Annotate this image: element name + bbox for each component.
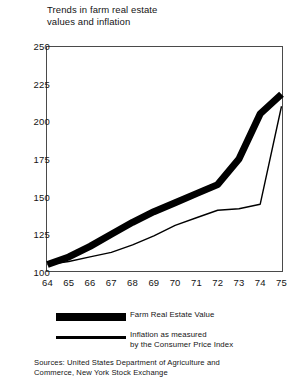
legend-item-1: Farm Real Estate Value <box>56 310 296 321</box>
x-axis-tick-73: 73 <box>228 277 250 288</box>
y-axis-tick-125: 125 <box>14 229 50 240</box>
x-axis-tick-66: 66 <box>79 277 101 288</box>
legend-label-2: Inflation as measured by the Consumer Pr… <box>130 330 233 350</box>
x-axis-tick-69: 69 <box>143 277 165 288</box>
y-axis-tick-150: 150 <box>14 191 50 202</box>
x-axis-tick-68: 68 <box>122 277 144 288</box>
x-axis-tick-70: 70 <box>164 277 186 288</box>
series-line-inflation-cpi <box>48 106 282 264</box>
y-axis-tick-225: 225 <box>14 78 50 89</box>
y-axis-tick-175: 175 <box>14 154 50 165</box>
x-axis-tick-75: 75 <box>271 277 293 288</box>
x-axis-tick-72: 72 <box>207 277 229 288</box>
chart-legend: Farm Real Estate ValueInflation as measu… <box>56 310 296 359</box>
legend-swatch-inflation <box>56 336 126 339</box>
chart-title: Trends in farm real estate values and in… <box>47 4 158 28</box>
legend-label-1: Farm Real Estate Value <box>130 310 214 320</box>
x-axis-tick-74: 74 <box>249 277 271 288</box>
legend-swatch-farm-real-estate <box>56 313 126 321</box>
series-line-farm-real-estate <box>48 94 282 264</box>
chart-series-layer <box>46 46 283 272</box>
legend-swatch-farm-real-estate-wrap <box>56 310 130 321</box>
x-axis-tick-64: 64 <box>37 277 59 288</box>
legend-item-2: Inflation as measured by the Consumer Pr… <box>56 330 296 350</box>
y-axis-tick-100: 100 <box>14 267 50 278</box>
x-axis-tick-67: 67 <box>100 277 122 288</box>
y-axis-tick-250: 250 <box>14 41 50 52</box>
x-axis-tick-71: 71 <box>185 277 207 288</box>
sources-note: Sources: United States Department of Agr… <box>34 358 296 378</box>
x-axis-tick-65: 65 <box>58 277 80 288</box>
legend-swatch-inflation-wrap <box>56 330 130 339</box>
y-axis-tick-200: 200 <box>14 116 50 127</box>
chart-container: Trends in farm real estate values and in… <box>0 0 303 382</box>
